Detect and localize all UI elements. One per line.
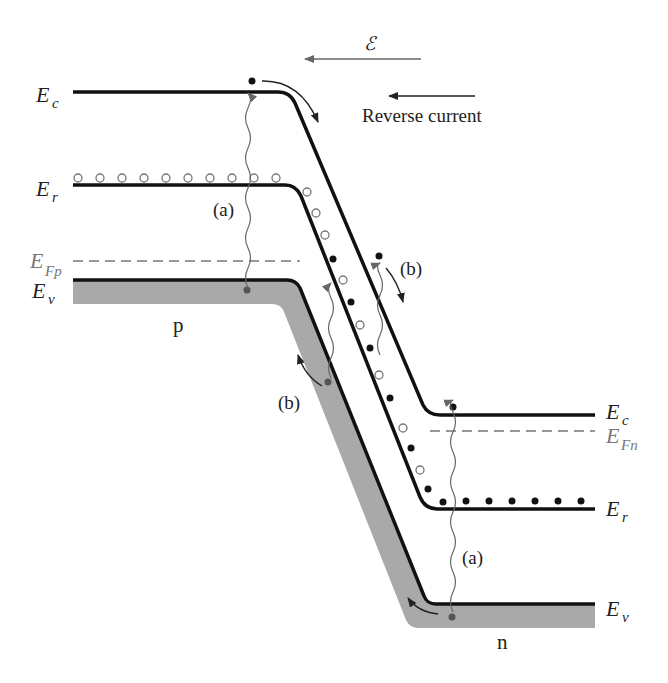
svg-text:r: r — [52, 189, 58, 205]
svg-text:c: c — [622, 412, 629, 428]
process-a-left-label: (a) — [213, 199, 234, 221]
svg-text:E: E — [35, 82, 50, 107]
process-b-upper-label: (b) — [400, 258, 422, 280]
right-er-label: E r — [605, 496, 628, 525]
conduction-band-line — [73, 92, 595, 415]
left-ev-label: E v — [31, 278, 55, 307]
band-diagram: ℰ Reverse current E c E r E Fp E v E c E… — [0, 0, 668, 683]
svg-text:c: c — [52, 95, 59, 111]
process-a-right-label: (a) — [462, 547, 483, 569]
svg-text:Fp: Fp — [44, 263, 62, 279]
left-er-label: E r — [35, 176, 58, 205]
process-b-lower-label: (b) — [278, 392, 300, 414]
svg-text:E: E — [605, 399, 620, 424]
electron-drift-arrow — [262, 81, 318, 122]
svg-text:v: v — [622, 609, 629, 625]
valence-band-line — [73, 280, 595, 604]
svg-text:Fn: Fn — [620, 437, 638, 453]
holes — [74, 174, 424, 474]
svg-text:E: E — [29, 248, 44, 273]
svg-text:E: E — [31, 278, 46, 303]
band-diagram-svg: ℰ Reverse current E c E r E Fp E v E c E… — [0, 0, 668, 683]
svg-text:r: r — [622, 509, 628, 525]
svg-text:E: E — [605, 423, 620, 448]
svg-text:E: E — [605, 496, 620, 521]
svg-text:v: v — [48, 291, 55, 307]
generation-arrow-left — [246, 93, 251, 288]
svg-text:E: E — [605, 596, 620, 621]
p-region-label: p — [173, 313, 184, 337]
svg-text:E: E — [35, 176, 50, 201]
n-region-label: n — [497, 630, 508, 654]
valence-band-shading — [73, 280, 595, 628]
reverse-current-label: Reverse current — [362, 105, 482, 126]
generation-arrow-right — [451, 400, 456, 612]
right-ev-label: E v — [605, 596, 629, 625]
left-efp-label: E Fp — [29, 248, 62, 279]
left-ec-label: E c — [35, 82, 59, 111]
field-symbol: ℰ — [364, 33, 378, 54]
